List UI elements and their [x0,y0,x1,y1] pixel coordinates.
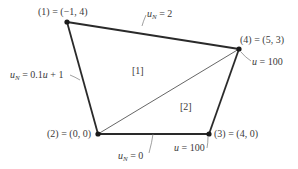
bc-left-rhs: = 0.1 [20,69,43,80]
element-1-label: [1] [132,65,144,77]
bc-left-rhs2: + 1 [48,69,64,80]
leader-left [70,75,80,80]
bc-node3-rhs: = 100 [179,142,205,153]
bc-left-label: uN = 0.1u + 1 [10,69,63,84]
leader-bottom [149,134,153,153]
edge-3-4 [209,49,239,134]
bc-top-label: uN = 2 [147,8,172,23]
node-4 [236,46,241,51]
node-1 [64,19,69,24]
leader-top [142,15,146,26]
leader-node3 [207,137,208,148]
fem-mesh-diagram [0,0,298,169]
element-2-label: [2] [180,101,192,113]
node-2 [95,131,100,136]
bc-node4-label: u = 100 [252,56,283,68]
bc-bottom-label: uN = 0 [118,150,143,165]
edge-1-2 [67,22,98,134]
edge-2-4-diagonal [98,49,239,134]
node-3-label: (3) = (4, 0) [214,128,258,140]
node-4-label: (4) = (5, 3) [240,34,284,46]
bc-node4-rhs: = 100 [257,56,283,67]
bc-top-rhs: = 2 [157,8,173,19]
node-3 [206,131,211,136]
node-2-label: (2) = (0, 0) [47,128,91,140]
edge-1-4 [67,22,239,49]
leader-node4 [241,52,251,61]
bc-bottom-rhs: = 0 [128,150,144,161]
node-1-label: (1) = (−1, 4) [38,6,88,18]
bc-node3-label: u = 100 [174,142,205,154]
